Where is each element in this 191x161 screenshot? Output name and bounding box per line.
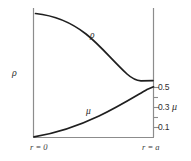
rho-curve-label: ρ	[90, 31, 95, 41]
tick-label-01: 0.1	[158, 123, 169, 132]
mu-curve-label: μ	[86, 107, 91, 117]
right-axis-title: μ	[172, 102, 177, 112]
figure-container: ρ μ 0.5 0.3 0.1 ρ μ r = 0 r = a	[0, 0, 191, 161]
tick-label-03: 0.3	[158, 103, 169, 112]
x-end-label: r = a	[142, 143, 160, 152]
x-start-label: r = 0	[30, 143, 48, 152]
mu-curve	[34, 87, 154, 137]
plot-canvas	[0, 0, 191, 161]
rho-curve	[36, 14, 154, 81]
left-axis-title: ρ	[12, 68, 17, 78]
tick-label-05: 0.5	[158, 83, 169, 92]
